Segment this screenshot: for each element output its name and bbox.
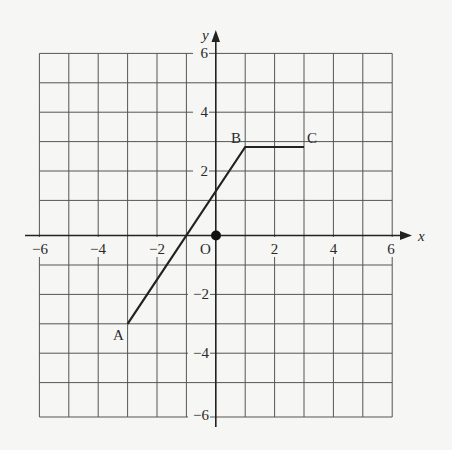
y-tick-label: −2 bbox=[193, 286, 209, 302]
x-tick-label: −6 bbox=[32, 241, 48, 257]
y-tick-label: 4 bbox=[201, 104, 209, 120]
y-tick-label: 2 bbox=[201, 163, 209, 179]
y-tick-label: −4 bbox=[193, 345, 209, 361]
y-tick-label: −6 bbox=[193, 407, 209, 423]
point-label-c: C bbox=[307, 130, 317, 146]
coordinate-grid-diagram: x y −6 −4 −2 2 4 6 6 4 2 −2 −4 −6 O A B … bbox=[0, 0, 452, 450]
x-tick-label: 2 bbox=[271, 241, 279, 257]
y-axis-label: y bbox=[200, 27, 209, 43]
point-label-b: B bbox=[231, 130, 241, 146]
y-tick-labels: 6 4 2 −2 −4 −6 bbox=[193, 45, 209, 423]
origin-label: O bbox=[200, 241, 211, 257]
x-axis-arrow-icon bbox=[400, 231, 412, 240]
x-tick-label: 6 bbox=[387, 241, 395, 257]
y-tick-label: 6 bbox=[201, 45, 209, 61]
x-axis-label: x bbox=[417, 228, 425, 244]
origin-point-marker bbox=[211, 231, 221, 241]
x-tick-label: 4 bbox=[330, 241, 338, 257]
x-tick-label: −2 bbox=[149, 241, 165, 257]
y-axis-arrow-icon bbox=[212, 30, 221, 42]
x-tick-label: −4 bbox=[90, 241, 106, 257]
point-label-a: A bbox=[113, 327, 124, 343]
